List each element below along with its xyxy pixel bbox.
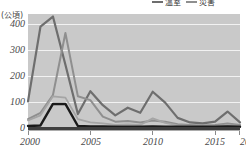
series-line-0 <box>28 17 240 124</box>
y-tick-400: 400 <box>10 19 25 29</box>
legend-label-1: 災害 <box>199 0 215 7</box>
legend-item-0: 溫室 <box>152 0 181 7</box>
plot-baseline <box>28 127 240 130</box>
y-tick-100: 100 <box>10 97 25 107</box>
chart-legend: 溫室 災害 <box>152 0 215 8</box>
x-label-2017: 2017 <box>240 136 246 147</box>
x-label-2015: 2015 <box>205 136 225 147</box>
y-tick-200: 200 <box>10 71 25 81</box>
plot-area <box>28 14 240 131</box>
legend-swatch-1 <box>186 1 197 3</box>
x-label-2010: 2010 <box>143 136 163 147</box>
x-label-2000: 2000 <box>20 136 40 147</box>
series-lines <box>28 14 240 131</box>
x-tick-2005 <box>90 131 91 135</box>
x-tick-2010 <box>152 131 153 135</box>
x-tick-2015 <box>215 131 216 135</box>
legend-swatch-0 <box>152 1 163 3</box>
legend-item-1: 災害 <box>186 0 215 7</box>
legend-label-0: 溫室 <box>165 0 181 7</box>
x-label-2005: 2005 <box>81 136 101 147</box>
chart-figure: 溫室 災害 (公頃) 400 300 200 100 0 2000 <box>0 0 246 161</box>
y-axis-tick-labels: 400 300 200 100 0 <box>0 14 25 131</box>
x-tick-2017 <box>239 131 240 135</box>
y-tick-0: 0 <box>20 123 25 133</box>
x-axis: 2000 2005 2010 2015 2017 <box>28 131 240 161</box>
y-tick-300: 300 <box>10 45 25 55</box>
x-tick-2000 <box>28 131 29 135</box>
